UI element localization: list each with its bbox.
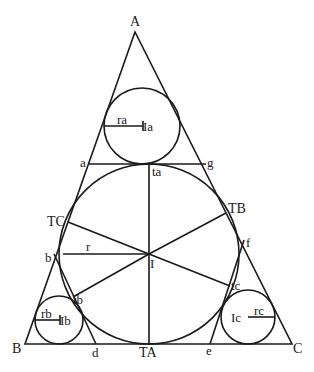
label-vertex-a: A <box>130 14 141 29</box>
label-vertex-c: C <box>293 341 302 356</box>
label-e: e <box>206 343 212 358</box>
label-b: b <box>45 250 52 265</box>
label-ia: Ia <box>143 119 153 134</box>
label-a: a <box>80 155 86 170</box>
segment-i-TC <box>68 222 149 254</box>
geometry-diagram: A B C Ia ra Ib rb Ic rc I r ta TA TB TC … <box>0 0 314 372</box>
label-ta-small: ta <box>152 164 162 179</box>
diagram-canvas: A B C Ia ra Ib rb Ic rc I r ta TA TB TC … <box>0 0 314 372</box>
label-rc: rc <box>254 303 264 318</box>
label-ra: ra <box>117 112 127 127</box>
segment-i-tb <box>73 254 149 297</box>
label-f: f <box>246 235 251 250</box>
label-rb: rb <box>41 306 52 321</box>
segment-i-tc <box>149 254 230 286</box>
label-r: r <box>86 239 91 254</box>
label-vertex-b: B <box>12 341 21 356</box>
label-d: d <box>92 345 99 360</box>
label-tb-small: tb <box>73 292 83 307</box>
label-TC: TC <box>47 214 65 229</box>
label-tc-small: tc <box>231 278 241 293</box>
label-g: g <box>207 155 214 170</box>
label-ib: Ib <box>60 313 71 328</box>
label-i: I <box>150 256 154 271</box>
segment-i-TB <box>149 213 226 254</box>
label-ic: Ic <box>231 310 241 325</box>
label-TB: TB <box>228 201 246 216</box>
label-TA: TA <box>139 345 157 360</box>
